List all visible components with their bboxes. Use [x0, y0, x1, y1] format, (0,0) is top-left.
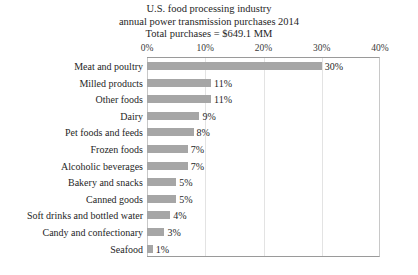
bar	[147, 245, 153, 253]
bar-row: Bakery and snacks5%	[0, 174, 418, 191]
x-tick-label: 20%	[255, 42, 272, 55]
chart-title-line-3: Total purchases = $649.1 MM	[0, 28, 418, 41]
bar-value-label: 7%	[191, 141, 204, 158]
chart-title: U.S. food processing industry annual pow…	[0, 3, 418, 41]
bar-row: Dairy9%	[0, 108, 418, 125]
bar-row: Pet foods and feeds8%	[0, 124, 418, 141]
bar-value-label: 30%	[325, 58, 343, 75]
bar	[147, 145, 188, 153]
category-label: Canned goods	[86, 191, 143, 208]
chart-title-line-1: U.S. food processing industry	[0, 3, 418, 16]
bar-value-label: 4%	[173, 207, 186, 224]
bar-value-label: 3%	[167, 224, 180, 241]
bar-value-label: 8%	[197, 124, 210, 141]
bar	[147, 62, 322, 70]
bar-value-label: 7%	[191, 158, 204, 175]
bar-rows: Meat and poultry30%Milled products11%Oth…	[0, 57, 418, 257]
x-tick-label: 30%	[313, 42, 330, 55]
category-label: Bakery and snacks	[68, 174, 143, 191]
bar-row: Other foods11%	[0, 91, 418, 108]
chart-title-line-2: annual power transmission purchases 2014	[0, 16, 418, 29]
category-label: Other foods	[96, 91, 144, 108]
x-tick-label: 10%	[197, 42, 214, 55]
bar-value-label: 5%	[179, 174, 192, 191]
category-label: Pet foods and feeds	[65, 124, 143, 141]
bar-row: Frozen foods7%	[0, 141, 418, 158]
bar	[147, 178, 176, 186]
bar-value-label: 11%	[214, 91, 232, 108]
category-label: Meat and poultry	[74, 58, 143, 75]
category-label: Frozen foods	[91, 141, 144, 158]
bar	[147, 128, 194, 136]
bar-value-label: 9%	[202, 108, 215, 125]
bar-row: Soft drinks and bottled water4%	[0, 207, 418, 224]
bar	[147, 112, 199, 120]
category-label: Candy and confectionary	[42, 224, 143, 241]
category-label: Soft drinks and bottled water	[27, 207, 143, 224]
x-tick-label: 0%	[141, 42, 154, 55]
bar	[147, 195, 176, 203]
bar	[147, 79, 211, 87]
bar-row: Candy and confectionary3%	[0, 224, 418, 241]
bar	[147, 211, 170, 219]
category-label: Dairy	[120, 108, 143, 125]
bar-row: Seafood1%	[0, 241, 418, 258]
category-label: Seafood	[110, 241, 143, 258]
bar	[147, 228, 164, 236]
bar-chart: U.S. food processing industry annual pow…	[0, 0, 418, 275]
x-axis-tick-labels: 0%10%20%30%40%	[0, 42, 418, 55]
bar-row: Milled products11%	[0, 75, 418, 92]
bar-row: Meat and poultry30%	[0, 58, 418, 75]
bar-value-label: 1%	[156, 241, 169, 258]
bar-value-label: 11%	[214, 75, 232, 92]
bar	[147, 162, 188, 170]
bar-row: Canned goods5%	[0, 191, 418, 208]
bar-row: Alcoholic beverages7%	[0, 158, 418, 175]
category-label: Alcoholic beverages	[61, 158, 143, 175]
bar-value-label: 5%	[179, 191, 192, 208]
x-tick-label: 40%	[371, 42, 388, 55]
bar	[147, 95, 211, 103]
category-label: Milled products	[79, 75, 143, 92]
